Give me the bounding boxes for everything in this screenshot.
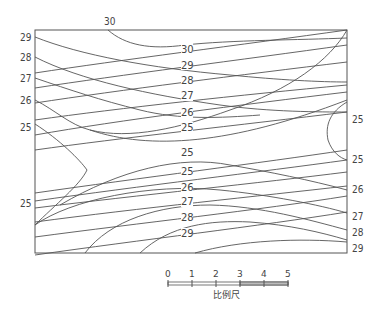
label-inner-29-lower: 29 <box>181 228 194 239</box>
label-right-25a: 25 <box>352 114 363 125</box>
label-inner-26-lower: 26 <box>181 182 194 193</box>
scale-tick-3: 3 <box>237 269 243 279</box>
label-inner-28-lower: 28 <box>181 212 194 223</box>
label-right-29: 29 <box>352 243 364 254</box>
label-right-26: 26 <box>352 184 364 195</box>
label-inner-27-lower: 27 <box>181 196 194 207</box>
label-left-28: 28 <box>20 52 32 63</box>
label-right-28: 28 <box>352 227 364 238</box>
label-left-27: 27 <box>20 73 31 84</box>
label-inner-29: 29 <box>181 60 194 71</box>
label-left-25b: 25 <box>20 198 31 209</box>
label-inner-25-center: 25 <box>181 147 194 158</box>
scale-caption: 比例尺 <box>213 289 240 300</box>
label-left-29: 29 <box>20 32 32 43</box>
label-inner-26: 26 <box>181 107 194 118</box>
scale-tick-5: 5 <box>285 269 291 279</box>
contour-map: 30 29 28 27 26 25 25 25 25 26 27 28 29 3… <box>0 0 377 314</box>
label-top-30: 30 <box>104 16 116 27</box>
label-inner-30: 30 <box>181 44 194 55</box>
contour-29-lower-desc <box>140 222 347 253</box>
contour-25-left-closed <box>35 124 87 225</box>
scale-bar: 0 1 2 3 4 5 比例尺 <box>165 269 291 300</box>
scale-tick-2: 2 <box>213 269 219 279</box>
scale-tick-1: 1 <box>189 269 195 279</box>
label-right-27: 27 <box>352 211 363 222</box>
contour-30-lower <box>195 240 347 253</box>
label-left-26: 26 <box>20 95 32 106</box>
label-right-25b: 25 <box>352 154 363 165</box>
label-left-25a: 25 <box>20 122 31 133</box>
scale-tick-4: 4 <box>261 269 267 279</box>
contour-28-lower-desc <box>85 205 347 253</box>
label-inner-25-lower: 25 <box>181 166 194 177</box>
scale-tick-0: 0 <box>165 269 171 279</box>
label-inner-27: 27 <box>181 90 194 101</box>
label-inner-25-upper: 25 <box>181 122 194 133</box>
label-inner-28: 28 <box>181 75 194 86</box>
contour-26-lower-desc <box>60 162 347 205</box>
contour-30-top <box>108 30 347 47</box>
